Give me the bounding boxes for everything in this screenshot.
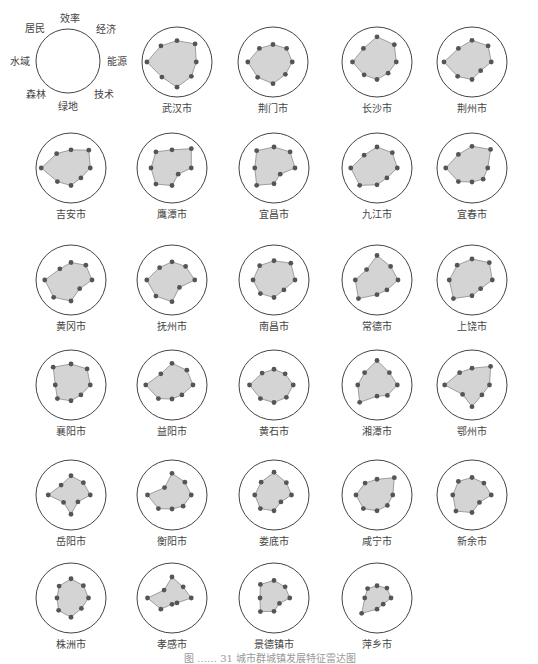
data-point xyxy=(284,395,289,400)
legend-axis-label: 能源 xyxy=(107,55,127,67)
data-point xyxy=(384,175,389,180)
data-point xyxy=(144,278,149,283)
data-point xyxy=(390,150,395,155)
data-point xyxy=(90,278,95,283)
data-point xyxy=(252,493,257,498)
data-point xyxy=(59,483,64,488)
data-point xyxy=(455,263,460,268)
data-point xyxy=(385,503,390,508)
city-radar: 吉安市 xyxy=(36,133,106,220)
data-point xyxy=(361,46,366,51)
data-point xyxy=(365,586,370,591)
data-point xyxy=(375,508,380,513)
data-point xyxy=(390,493,395,498)
data-point xyxy=(362,596,367,601)
data-point xyxy=(375,583,380,588)
data-point xyxy=(396,278,401,283)
data-point xyxy=(69,362,74,367)
city-radar: 上饶市 xyxy=(437,245,507,332)
data-point xyxy=(51,365,56,370)
data-point xyxy=(258,506,263,511)
data-point xyxy=(470,144,475,149)
data-point xyxy=(158,371,163,376)
data-point xyxy=(284,46,289,51)
data-point xyxy=(277,601,282,606)
city-label: 南昌市 xyxy=(259,320,289,332)
data-point xyxy=(470,257,475,262)
data-point xyxy=(272,145,277,150)
data-point xyxy=(375,34,380,39)
data-point xyxy=(375,358,380,363)
data-point xyxy=(55,396,60,401)
data-point xyxy=(192,278,197,283)
data-point xyxy=(284,480,289,485)
city-label: 抚州市 xyxy=(157,320,187,332)
data-point xyxy=(375,477,380,482)
legend-circle xyxy=(36,29,100,93)
data-point xyxy=(258,596,263,601)
data-point xyxy=(389,596,394,601)
data-point xyxy=(489,493,494,498)
city-radar: 荆州市 xyxy=(437,27,507,114)
data-point xyxy=(162,588,167,593)
data-point xyxy=(69,299,74,304)
data-point xyxy=(170,575,175,580)
data-point xyxy=(245,60,250,65)
data-point xyxy=(247,383,252,388)
data-point xyxy=(69,183,74,188)
radar-polygon xyxy=(148,577,192,609)
data-point xyxy=(350,60,355,65)
data-point xyxy=(154,182,159,187)
data-point xyxy=(353,278,358,283)
data-point xyxy=(257,46,262,51)
data-point xyxy=(271,81,276,86)
data-point xyxy=(287,596,292,601)
city-label: 黄冈市 xyxy=(56,320,86,332)
radar-polygon xyxy=(53,364,90,401)
radar-chart-grid: 效率经济能源技术绿地森林水域居民 武汉市荆门市长沙市荆州市吉安市鹰潭市宜昌市九江… xyxy=(0,0,538,664)
data-point xyxy=(55,179,60,184)
data-point xyxy=(175,85,180,90)
data-point xyxy=(69,576,74,581)
data-point xyxy=(39,166,44,171)
city-radar-charts: 武汉市荆门市长沙市荆州市吉安市鹰潭市宜昌市九江市宜春市黄冈市抚州市南昌市常德市上… xyxy=(36,27,507,650)
city-label: 吉安市 xyxy=(56,208,86,220)
data-point xyxy=(384,287,389,292)
data-point xyxy=(375,77,380,82)
data-point xyxy=(281,287,286,292)
data-point xyxy=(170,147,175,152)
data-point xyxy=(457,370,462,375)
radar-polygon xyxy=(45,263,92,302)
data-point xyxy=(255,75,260,80)
data-point xyxy=(456,152,461,157)
data-point xyxy=(283,371,288,376)
data-point xyxy=(479,392,484,397)
data-point xyxy=(162,485,167,490)
data-point xyxy=(61,500,66,505)
city-radar: 衡阳市 xyxy=(137,460,207,547)
city-label: 荆门市 xyxy=(258,102,288,114)
data-point xyxy=(42,278,47,283)
data-point xyxy=(51,295,56,300)
data-point xyxy=(456,46,461,51)
city-label: 襄阳市 xyxy=(56,425,86,437)
data-point xyxy=(395,166,400,171)
data-point xyxy=(258,291,263,296)
data-point xyxy=(189,74,194,79)
city-radar: 新余市 xyxy=(437,460,507,547)
city-radar: 抚州市 xyxy=(137,245,207,332)
data-point xyxy=(260,371,265,376)
radar-polygon xyxy=(446,146,491,182)
data-point xyxy=(451,296,456,301)
data-point xyxy=(149,166,154,171)
data-point xyxy=(388,264,393,269)
data-point xyxy=(160,75,165,80)
data-point xyxy=(145,493,150,498)
data-point xyxy=(481,177,486,182)
data-point xyxy=(470,77,475,82)
data-point xyxy=(288,261,293,266)
data-point xyxy=(145,60,150,65)
city-label: 长沙市 xyxy=(362,102,392,114)
data-point xyxy=(272,295,277,300)
data-point xyxy=(490,278,495,283)
